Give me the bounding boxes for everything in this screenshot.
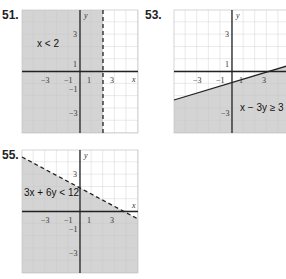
svg-text:−1: −1 — [69, 225, 78, 234]
svg-text:−1: −1 — [64, 216, 73, 225]
svg-text:−3: −3 — [69, 109, 78, 118]
svg-text:3: 3 — [110, 216, 114, 225]
svg-text:3: 3 — [262, 76, 266, 85]
svg-text:3: 3 — [110, 76, 114, 85]
problem-55-number: 55. — [2, 148, 19, 162]
svg-text:y: y — [83, 151, 88, 160]
svg-text:1: 1 — [73, 60, 77, 69]
svg-text:1: 1 — [239, 76, 243, 85]
svg-text:1: 1 — [87, 216, 91, 225]
svg-text:−1: −1 — [64, 76, 73, 85]
graph-51: −3−1 13 31 −1−3 x y x < 2 — [22, 10, 138, 133]
svg-text:−1: −1 — [69, 85, 78, 94]
svg-text:−3: −3 — [69, 249, 78, 258]
svg-text:−3: −3 — [193, 76, 202, 85]
svg-text:1: 1 — [225, 60, 229, 69]
graph-53: −3−1 13 31 −3 y x − 3y ≥ 3 — [174, 10, 286, 133]
svg-text:x: x — [131, 201, 136, 210]
problem-53-number: 53. — [145, 8, 162, 22]
svg-text:−3: −3 — [41, 76, 50, 85]
svg-text:3: 3 — [73, 30, 77, 39]
svg-text:3: 3 — [225, 30, 229, 39]
inequality-51: x < 2 — [37, 38, 59, 49]
svg-text:−1: −1 — [216, 76, 225, 85]
problem-51-number: 51. — [2, 8, 19, 22]
inequality-53: x − 3y ≥ 3 — [240, 102, 284, 113]
graph-55: −3−1 13 3 −1−3 x y 3x + 6y < 12 — [22, 150, 138, 273]
svg-text:y: y — [235, 11, 240, 20]
svg-text:−3: −3 — [41, 216, 50, 225]
svg-text:x: x — [131, 75, 136, 84]
svg-text:−3: −3 — [221, 109, 230, 118]
svg-text:1: 1 — [87, 76, 91, 85]
svg-text:y: y — [83, 11, 88, 20]
inequality-55: 3x + 6y < 12 — [24, 187, 79, 198]
svg-text:3: 3 — [73, 170, 77, 179]
